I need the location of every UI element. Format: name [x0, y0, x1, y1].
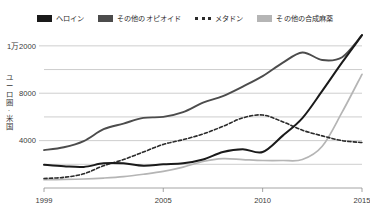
gridlines-group — [44, 46, 362, 164]
legend-item-other-opioids[interactable]: その他のオピオイド — [98, 14, 181, 23]
series-line-0 — [44, 35, 362, 167]
y-tick-label: 4000 — [19, 136, 36, 145]
legend-item-heroin[interactable]: ヘロイン — [37, 14, 84, 23]
y-tick-label: 8000 — [19, 89, 36, 98]
y-tick-label: 1万2000 — [7, 42, 36, 51]
chart-container: ヘロイン その他のオピオイド メタドン その他の合成麻薬 400080001万2… — [0, 0, 370, 224]
legend-label-methadone: メタドン — [215, 14, 243, 23]
legend-swatch-other-opioids — [98, 15, 113, 22]
legend-label-heroin: ヘロイン — [56, 14, 84, 23]
legend-item-methadone[interactable]: メタドン — [195, 14, 243, 23]
legend-swatch-heroin — [37, 15, 52, 22]
x-tick-label: 2010 — [254, 196, 271, 205]
legend-label-other-synthetic: その他の合成麻薬 — [276, 14, 333, 23]
chart-legend: ヘロイン その他のオピオイド メタドン その他の合成麻薬 — [0, 10, 370, 26]
series-line-1 — [44, 35, 362, 150]
plot-area: 400080001万2000 1999200520102015 ユーロ圏·米国 — [0, 26, 370, 224]
series-group — [44, 35, 362, 180]
legend-label-other-opioids: その他のオピオイド — [117, 14, 181, 23]
legend-swatch-methadone — [195, 17, 211, 20]
x-tick-label: 2005 — [155, 196, 172, 205]
y-axis-title-group: ユーロ圏·米国 — [6, 73, 14, 131]
x-tick-labels-group: 1999200520102015 — [36, 196, 370, 205]
line-chart-svg: 400080001万2000 1999200520102015 ユーロ圏·米国 — [0, 26, 370, 224]
legend-swatch-other-synthetic — [257, 15, 272, 22]
legend-item-other-synthetic[interactable]: その他の合成麻薬 — [257, 14, 333, 23]
axis-group — [39, 46, 362, 192]
series-line-2 — [44, 115, 362, 179]
series-line-3 — [44, 74, 362, 179]
y-axis-title-char: 国 — [6, 122, 13, 131]
x-tick-label: 1999 — [36, 196, 53, 205]
x-tick-label: 2015 — [354, 196, 370, 205]
